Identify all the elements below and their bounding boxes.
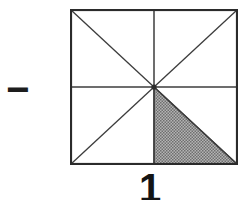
minus-operator: −	[6, 69, 29, 109]
fraction-subtraction-figure: − 1	[0, 0, 243, 200]
center-intersection-dot	[151, 84, 156, 89]
figure-caption: 1	[62, 168, 238, 200]
divided-square-diagram	[70, 9, 238, 165]
